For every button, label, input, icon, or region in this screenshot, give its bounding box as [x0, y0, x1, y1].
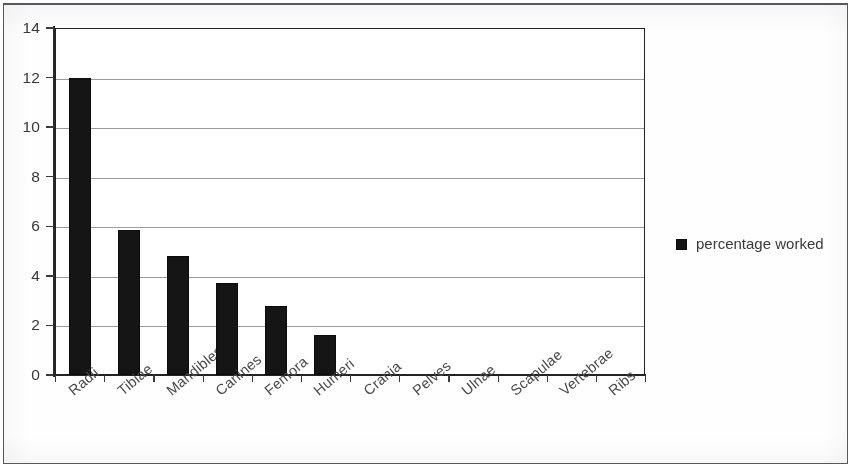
x-tick-mark	[301, 375, 302, 382]
legend-swatch-icon	[676, 239, 687, 250]
x-tick-mark	[203, 375, 204, 382]
x-tick-mark	[153, 375, 154, 382]
x-tick-mark	[448, 375, 449, 382]
y-tick-mark	[46, 374, 54, 375]
gridline	[56, 79, 644, 80]
y-tick-mark	[46, 27, 54, 28]
gridline	[56, 178, 644, 179]
y-tick-mark	[46, 325, 54, 326]
y-tick-mark	[46, 176, 54, 177]
y-tick-mark	[46, 126, 54, 127]
x-tick-mark	[498, 375, 499, 382]
x-tick-mark	[596, 375, 597, 382]
chart-legend: percentage worked	[676, 236, 824, 252]
x-tick-mark	[645, 375, 646, 382]
x-tick-mark	[104, 375, 105, 382]
gridline	[56, 326, 644, 327]
legend-label-percentage-worked: percentage worked	[696, 236, 824, 252]
x-tick-mark	[399, 375, 400, 382]
y-tick-label: 2	[6, 317, 40, 332]
y-tick-mark	[46, 77, 54, 78]
bar	[167, 256, 189, 375]
x-tick-mark	[252, 375, 253, 382]
y-tick-label: 12	[6, 70, 40, 85]
y-tick-label: 0	[6, 367, 40, 382]
y-tick-label: 4	[6, 268, 40, 283]
x-tick-mark	[350, 375, 351, 382]
plot-area	[55, 28, 645, 375]
x-tick-mark	[547, 375, 548, 382]
y-tick-label: 14	[6, 20, 40, 35]
bar-chart: 02468101214RadiiTibiaeMandiblesCaninesFe…	[0, 0, 853, 469]
gridline	[56, 277, 644, 278]
y-tick-label: 10	[6, 119, 40, 134]
y-tick-label: 8	[6, 169, 40, 184]
y-tick-mark	[46, 226, 54, 227]
gridline	[56, 227, 644, 228]
bar	[69, 78, 91, 375]
gridline	[56, 128, 644, 129]
bar	[216, 283, 238, 375]
y-tick-mark	[46, 275, 54, 276]
bar	[118, 230, 140, 375]
x-tick-mark	[55, 375, 56, 382]
bar	[265, 306, 287, 375]
y-tick-label: 6	[6, 218, 40, 233]
